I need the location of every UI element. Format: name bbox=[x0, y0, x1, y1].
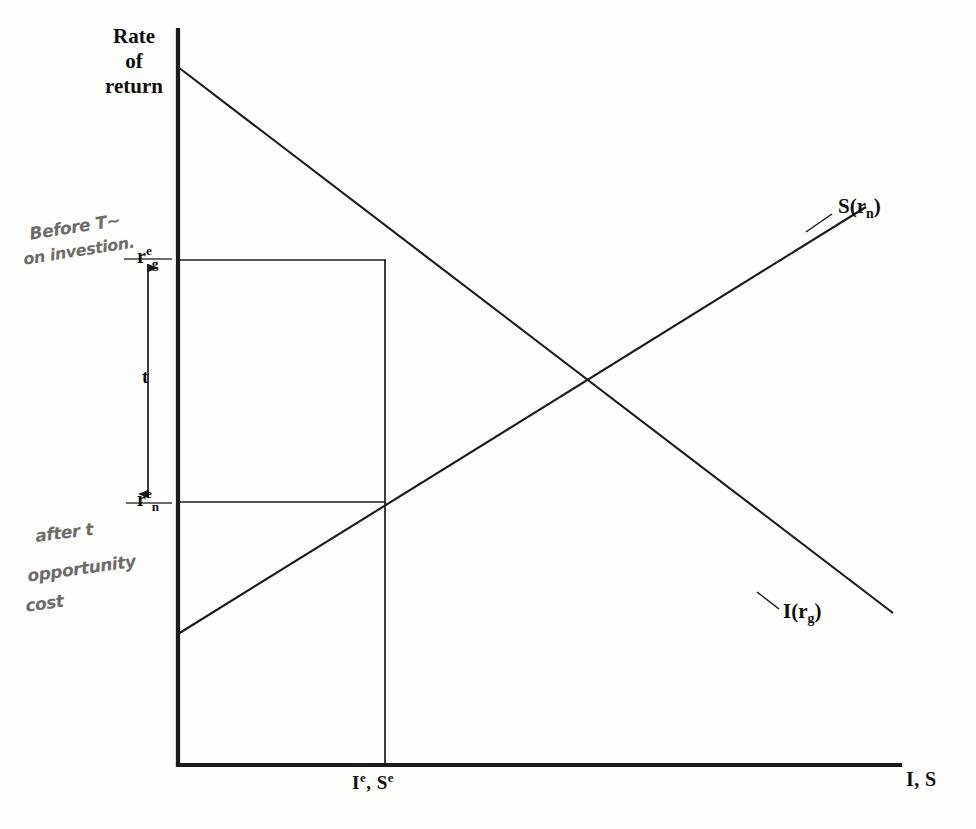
savings-curve-label-base: S(r bbox=[838, 194, 866, 218]
investment-curve-label-tail: ) bbox=[814, 599, 821, 623]
y-axis-title-line-2: of bbox=[92, 49, 176, 74]
y-axis-title: Rate of return bbox=[92, 24, 176, 98]
net-rate-tick-label: ren bbox=[137, 488, 159, 510]
tax-wedge-label: t bbox=[142, 366, 148, 387]
gross-rate-base: r bbox=[137, 245, 146, 267]
x-axis-title: I, S bbox=[906, 768, 937, 790]
gross-rate-subscript: g bbox=[152, 256, 159, 271]
equilibrium-quantity-label: Ie, Se bbox=[352, 772, 394, 793]
investment-label-leader bbox=[757, 592, 779, 609]
equilibrium-saving-base: S bbox=[377, 772, 388, 793]
equilibrium-investment-base: I bbox=[352, 772, 360, 793]
y-axis-title-line-1: Rate bbox=[92, 24, 176, 49]
net-rate-subscript: n bbox=[152, 499, 159, 514]
investment-curve-label-base: I(r bbox=[783, 599, 808, 623]
investment-demand-curve bbox=[178, 67, 893, 613]
savings-curve-label-subscript: n bbox=[866, 206, 874, 221]
diagram-canvas bbox=[0, 0, 976, 829]
savings-curve-label: S(rn) bbox=[838, 195, 881, 219]
savings-supply-curve bbox=[178, 207, 866, 634]
net-rate-base: r bbox=[137, 488, 146, 510]
investment-curve-label: I(rg) bbox=[783, 600, 821, 624]
y-axis-title-line-3: return bbox=[92, 74, 176, 99]
equilibrium-separator: , bbox=[366, 772, 377, 793]
equilibrium-saving-superscript: e bbox=[388, 770, 394, 785]
savings-curve-label-tail: ) bbox=[874, 194, 881, 218]
gross-rate-tick-label: reg bbox=[137, 245, 158, 267]
figure-page: Rate of return I, S reg ren S(rn) I(rg) … bbox=[0, 0, 976, 829]
